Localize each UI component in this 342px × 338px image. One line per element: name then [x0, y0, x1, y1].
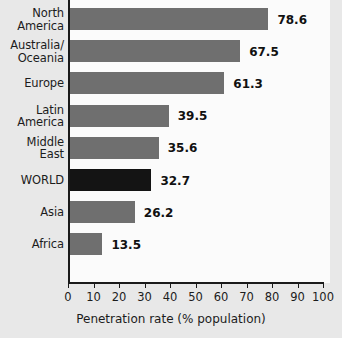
x-axis-tick-label: 20: [112, 290, 127, 304]
x-axis-tick-label: 70: [239, 290, 254, 304]
x-axis-tick: [247, 283, 248, 288]
category-axis-labels: NorthAmericaAustralia/OceaniaEuropeLatin…: [0, 0, 64, 283]
category-label: Europe: [0, 77, 64, 90]
x-axis-tick-label: 60: [214, 290, 229, 304]
bar-value-label: 32.7: [160, 174, 190, 188]
bar: [68, 201, 135, 223]
y-axis-line: [68, 0, 70, 283]
x-axis-tick-label: 40: [163, 290, 178, 304]
x-axis-tick-label: 80: [265, 290, 280, 304]
x-axis-tick: [272, 283, 273, 288]
x-axis-tick: [94, 283, 95, 288]
category-label: NorthAmerica: [0, 7, 64, 32]
x-axis-tick-label: 100: [312, 290, 334, 304]
x-axis-tick: [68, 283, 69, 288]
bar: [68, 40, 240, 62]
bar: [68, 72, 224, 94]
category-label: Africa: [0, 238, 64, 251]
bar: [68, 137, 159, 159]
x-axis-tick-label: 10: [86, 290, 101, 304]
bar: [68, 169, 151, 191]
category-label: WORLD: [0, 174, 64, 187]
bar-value-label: 78.6: [277, 13, 307, 27]
penetration-rate-bar-chart: NorthAmericaAustralia/OceaniaEuropeLatin…: [0, 0, 342, 338]
bar-value-label: 61.3: [233, 77, 263, 91]
x-axis-tick: [221, 283, 222, 288]
x-axis-tick-label: 90: [290, 290, 305, 304]
bar: [68, 8, 268, 30]
x-axis-tick-label: 30: [137, 290, 152, 304]
x-axis-tick: [119, 283, 120, 288]
bar-value-label: 26.2: [144, 206, 174, 220]
bar-value-label: 13.5: [111, 238, 141, 252]
bar: [68, 233, 102, 255]
x-axis-tick: [170, 283, 171, 288]
x-axis-tick-label: 50: [188, 290, 203, 304]
x-axis-tick-label: 0: [64, 290, 71, 304]
category-label: Australia/Oceania: [0, 39, 64, 64]
x-axis-tick: [196, 283, 197, 288]
x-axis-tick: [298, 283, 299, 288]
bars-layer: [68, 0, 330, 283]
x-axis-title: Penetration rate (% population): [0, 312, 342, 326]
x-axis-tick: [145, 283, 146, 288]
bar: [68, 105, 169, 127]
category-label: Asia: [0, 206, 64, 219]
category-label: LatinAmerica: [0, 104, 64, 129]
bar-value-label: 39.5: [178, 109, 208, 123]
category-label: MiddleEast: [0, 136, 64, 161]
bar-value-label: 67.5: [249, 45, 279, 59]
bar-value-label: 35.6: [168, 141, 198, 155]
x-axis-tick: [323, 283, 324, 288]
